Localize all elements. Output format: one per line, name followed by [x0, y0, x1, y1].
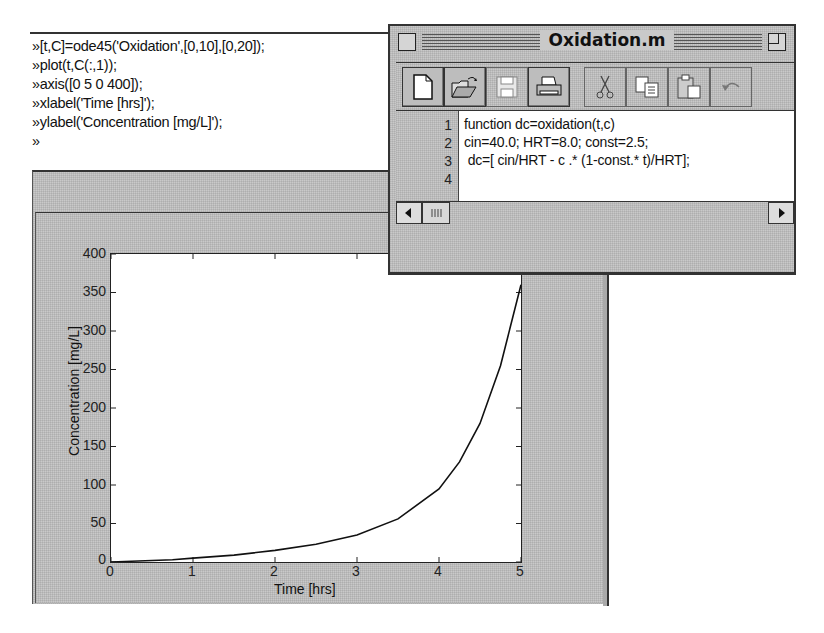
line-number: 2 — [444, 135, 452, 151]
command-prompt[interactable]: » — [32, 133, 40, 150]
line-number-gutter: 1 2 3 4 — [396, 111, 459, 201]
editor-title: Oxidation.m — [540, 30, 674, 50]
command-line: »axis([0 5 0 400]); — [32, 76, 142, 93]
x-tick-label: 0 — [100, 563, 120, 579]
y-tick-label: 350 — [70, 283, 106, 299]
new-file-button[interactable] — [402, 67, 444, 107]
plot-area — [110, 253, 522, 563]
open-folder-icon — [450, 75, 480, 99]
x-tick-label: 2 — [264, 563, 284, 579]
scroll-thumb[interactable] — [422, 202, 450, 224]
command-line: »[t,C]=ode45('Oxidation',[0,10],[0,20]); — [32, 38, 265, 55]
x-tick-label: 5 — [510, 563, 530, 579]
editor-title-bar[interactable]: Oxidation.m — [390, 26, 794, 58]
y-tick-label: 150 — [70, 437, 106, 453]
code-line[interactable]: dc=[ cin/HRT - c .* (1-const.* t)/HRT]; — [464, 152, 690, 168]
save-button[interactable] — [486, 67, 528, 107]
horizontal-scrollbar[interactable] — [396, 202, 794, 224]
y-tick-label: 400 — [70, 245, 106, 261]
code-editor[interactable]: 1 2 3 4 function dc=oxidation(t,c) cin=4… — [396, 110, 794, 202]
printer-icon — [535, 75, 563, 99]
x-axis-label: Time [hrs] — [274, 581, 336, 597]
command-line: »xlabel('Time [hrs]'); — [32, 95, 154, 112]
floppy-disk-icon — [495, 75, 519, 99]
close-box-icon[interactable] — [398, 33, 416, 51]
command-window[interactable]: »[t,C]=ode45('Oxidation',[0,10],[0,20]);… — [30, 32, 390, 174]
line-number: 3 — [444, 153, 452, 169]
paste-button[interactable] — [668, 67, 710, 107]
line-number: 1 — [444, 117, 452, 133]
y-tick-label: 50 — [70, 514, 106, 530]
scroll-left-button[interactable] — [396, 202, 422, 224]
y-tick-label: 200 — [70, 399, 106, 415]
print-button[interactable] — [528, 67, 570, 107]
y-tick-label: 250 — [70, 360, 106, 376]
x-tick-label: 4 — [428, 563, 448, 579]
open-file-button[interactable] — [444, 67, 486, 107]
cut-button[interactable] — [584, 67, 626, 107]
concentration-curve — [111, 254, 521, 562]
command-line: »ylabel('Concentration [mg/L]'); — [32, 114, 222, 131]
y-tick-label: 300 — [70, 322, 106, 338]
scissors-icon — [595, 74, 615, 100]
paste-icon — [675, 74, 703, 100]
grip-icon — [423, 203, 449, 223]
code-line[interactable]: cin=40.0; HRT=8.0; const=2.5; — [464, 134, 648, 150]
command-line: »plot(t,C(:,1)); — [32, 57, 117, 74]
x-tick-label: 3 — [346, 563, 366, 579]
undo-button[interactable] — [710, 67, 752, 107]
line-number: 4 — [444, 171, 452, 187]
editor-toolbar — [396, 62, 794, 109]
y-tick-label: 100 — [70, 476, 106, 492]
copy-icon — [633, 75, 661, 99]
zoom-box-icon[interactable] — [768, 33, 786, 51]
code-line[interactable]: function dc=oxidation(t,c) — [464, 116, 615, 132]
undo-icon — [719, 77, 743, 97]
scroll-right-button[interactable] — [768, 202, 794, 224]
x-tick-label: 1 — [182, 563, 202, 579]
copy-button[interactable] — [626, 67, 668, 107]
arrow-left-icon — [397, 203, 421, 223]
arrow-right-icon — [769, 203, 793, 223]
y-axis-label: Concentration [mg/L] — [66, 291, 82, 491]
new-file-icon — [412, 74, 434, 100]
editor-window: Oxidation.m 1 2 — [388, 24, 796, 275]
